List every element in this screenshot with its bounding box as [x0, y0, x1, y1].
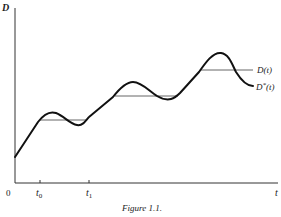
tick-label-t0: t0 [36, 187, 43, 200]
d-star-t-curve [15, 53, 253, 157]
origin-label: 0 [6, 188, 11, 198]
legend-d-star-t: D*(t) [255, 81, 275, 92]
figure-caption: Figure 1.1. [121, 203, 162, 213]
y-axis-label: D [1, 2, 9, 13]
figure-1-1: D 0 t t0 t1 D(t) D*(t) Figure 1.1. [0, 0, 281, 217]
tick-label-t1: t1 [86, 187, 93, 200]
d-t-series [40, 70, 253, 120]
legend-d-t: D(t) [256, 65, 272, 75]
x-axis-label: t [275, 187, 278, 198]
